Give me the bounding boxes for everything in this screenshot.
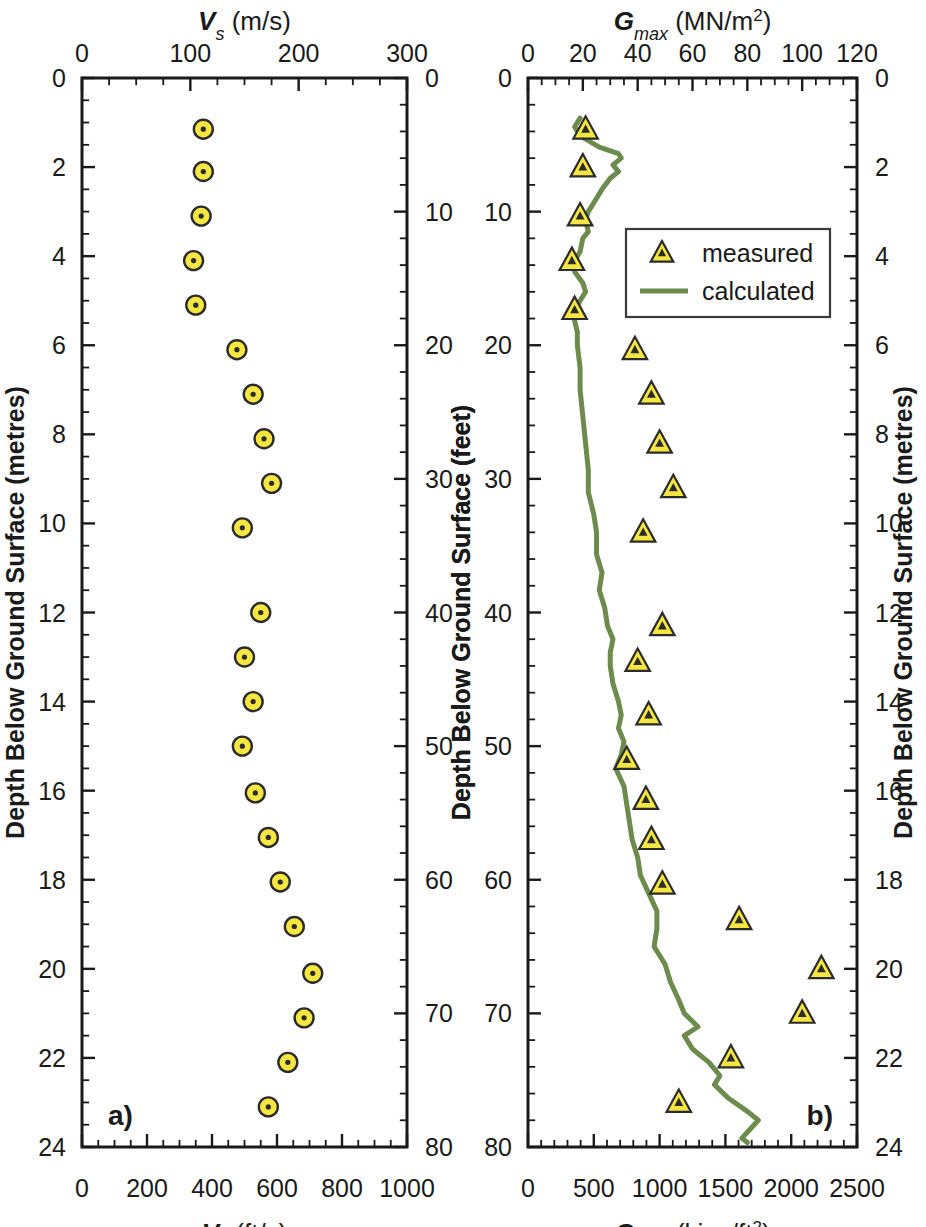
- panel-b-yleft-tick-label: 0: [498, 64, 512, 92]
- panel-b-yright-tick-label: 18: [875, 866, 903, 894]
- panel-a-tick-labels: 0100200300020040060080010000246810121416…: [38, 39, 453, 1202]
- panel-a-xbottom-tick-label: 400: [191, 1174, 233, 1202]
- panel-b-yright-tick-label: 24: [875, 1133, 903, 1161]
- data-point-center-dot: [251, 392, 256, 397]
- panel-a-yleft-axis-title: Depth Below Ground Surface (metres): [1, 386, 29, 839]
- data-point-center-dot: [253, 790, 258, 795]
- panel-a-label: a): [108, 1100, 133, 1131]
- panel-a-xbottom-tick-label: 0: [75, 1174, 89, 1202]
- panel-b-xtop-tick-label: 80: [733, 39, 761, 67]
- panel-b-yright-tick-label: 6: [875, 331, 889, 359]
- data-point-center-dot: [261, 436, 266, 441]
- panel-b-yleft-tick-label: 70: [484, 999, 512, 1027]
- data-point-center-dot: [199, 213, 204, 218]
- legend-label-measured: measured: [702, 239, 813, 267]
- panel-a-yright-tick-label: 80: [425, 1133, 453, 1161]
- data-point-center-dot: [240, 525, 245, 530]
- panel-a-yleft-tick-label: 0: [52, 64, 66, 92]
- panel-a-xtop-tick-label: 200: [278, 39, 320, 67]
- panel-a: a): [82, 78, 407, 1147]
- panel-b-yleft-tick-label: 10: [484, 198, 512, 226]
- panel-b-yright-tick-label: 8: [875, 420, 889, 448]
- panel-a-axis-titles: Vs (m/s)Vs (ft/s)Depth Below Ground Surf…: [1, 6, 475, 1227]
- panel-b-xtop-tick-label: 120: [836, 39, 878, 67]
- panel-a-plot-frame: [82, 78, 407, 1147]
- panel-b-xtop-tick-label: 100: [781, 39, 823, 67]
- panel-a-yleft-tick-label: 18: [38, 866, 66, 894]
- data-point-center-dot: [251, 699, 256, 704]
- data-point-center-dot: [201, 127, 206, 132]
- data-point-center-dot: [242, 654, 247, 659]
- data-point-center-dot: [301, 1015, 306, 1020]
- panel-a-data-markers: [184, 120, 322, 1117]
- panel-b-xbottom-axis-title: Gmax (kips/ft2): [614, 1218, 770, 1227]
- panel-b-yright-axis-title: Depth Below Ground Surface (metres): [889, 386, 917, 839]
- panel-b-yright-tick-label: 4: [875, 242, 889, 270]
- panel-b-yleft-tick-label: 60: [484, 866, 512, 894]
- panel-b-yright-tick-label: 0: [875, 64, 889, 92]
- legend-label-calculated: calculated: [702, 277, 815, 305]
- data-point-center-dot: [266, 835, 271, 840]
- data-point-center-dot: [258, 610, 263, 615]
- panel-a-yleft-tick-label: 14: [38, 688, 66, 716]
- data-point-center-dot: [240, 744, 245, 749]
- panel-a-yright-tick-label: 70: [425, 999, 453, 1027]
- panel-a-xbottom-tick-label: 600: [256, 1174, 298, 1202]
- panel-b-xbottom-tick-label: 500: [573, 1174, 615, 1202]
- panel-a-yleft-tick-label: 6: [52, 331, 66, 359]
- panel-a-yleft-tick-label: 2: [52, 153, 66, 181]
- panel-a-yleft-tick-label: 16: [38, 777, 66, 805]
- panel-b-yleft-tick-label: 30: [484, 465, 512, 493]
- panel-a-yright-tick-label: 10: [425, 198, 453, 226]
- panel-a-xbottom-tick-label: 1000: [379, 1174, 435, 1202]
- panel-a-xbottom-axis-title: Vs (ft/s): [202, 1218, 288, 1227]
- panel-b-xbottom-tick-label: 1500: [698, 1174, 754, 1202]
- data-point-center-dot: [193, 303, 198, 308]
- panel-b-yleft-tick-label: 80: [484, 1133, 512, 1161]
- panel-b-xbottom-tick-label: 1000: [632, 1174, 688, 1202]
- data-point-center-dot: [278, 879, 283, 884]
- panel-a-xtop-tick-label: 0: [75, 39, 89, 67]
- panel-b-legend: measuredcalculated: [626, 229, 830, 317]
- panel-a-yright-tick-label: 20: [425, 331, 453, 359]
- data-point-center-dot: [266, 1104, 271, 1109]
- figure-root: a)01002003000200400600800100002468101214…: [0, 0, 926, 1227]
- data-point-center-dot: [310, 971, 315, 976]
- panel-b-yleft-tick-label: 50: [484, 732, 512, 760]
- panel-a-yleft-tick-label: 4: [52, 242, 66, 270]
- panel-a-yleft-tick-label: 22: [38, 1044, 66, 1072]
- data-point-center-dot: [201, 169, 206, 174]
- panel-b-yright-tick-label: 2: [875, 153, 889, 181]
- panel-a-xbottom-tick-label: 200: [126, 1174, 168, 1202]
- panel-b-xtop-tick-label: 60: [679, 39, 707, 67]
- data-point-center-dot: [234, 347, 239, 352]
- panel-a-yright-tick-label: 0: [425, 64, 439, 92]
- panel-b-xbottom-tick-label: 2500: [829, 1174, 885, 1202]
- panel-b-xbottom-tick-label: 0: [521, 1174, 535, 1202]
- panel-b-label: b): [807, 1100, 833, 1131]
- panel-a-yleft-tick-label: 20: [38, 955, 66, 983]
- panel-a-xtop-tick-label: 100: [169, 39, 211, 67]
- data-point-center-dot: [269, 481, 274, 486]
- panel-b-yleft-tick-label: 20: [484, 331, 512, 359]
- data-point-center-dot: [292, 924, 297, 929]
- panel-b-xbottom-tick-label: 2000: [763, 1174, 819, 1202]
- panel-a-yright-tick-label: 60: [425, 866, 453, 894]
- panel-b-yright-tick-label: 22: [875, 1044, 903, 1072]
- panel-b-yleft-axis-title: Depth Below Ground Surface (feet): [447, 405, 475, 820]
- data-point-center-dot: [285, 1060, 290, 1065]
- panel-a-yleft-tick-label: 24: [38, 1133, 66, 1161]
- panel-b-xtop-tick-label: 20: [569, 39, 597, 67]
- panel-a-xtop-tick-label: 300: [386, 39, 428, 67]
- data-point-center-dot: [191, 258, 196, 263]
- panel-a-yleft-tick-label: 8: [52, 420, 66, 448]
- panel-b-axis-titles: Gmax (MN/m2)Gmax (kips/ft2)Depth Below G…: [447, 6, 917, 1227]
- panel-b-xtop-tick-label: 0: [521, 39, 535, 67]
- panel-a-yleft-tick-label: 10: [38, 509, 66, 537]
- panel-b-yright-tick-label: 20: [875, 955, 903, 983]
- panel-a-xbottom-tick-label: 800: [321, 1174, 363, 1202]
- panel-a-yleft-tick-label: 12: [38, 599, 66, 627]
- two-panel-depth-profile-chart: a)01002003000200400600800100002468101214…: [0, 0, 926, 1227]
- panel-b-yleft-tick-label: 40: [484, 599, 512, 627]
